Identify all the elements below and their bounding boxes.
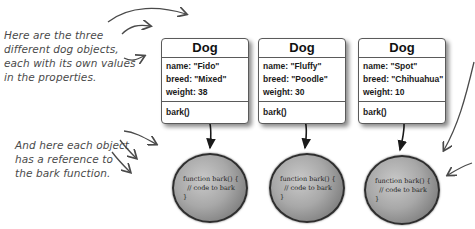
arrow-icon xyxy=(108,8,186,22)
function-code: function bark() { // code to bark } xyxy=(174,175,246,202)
dog-properties: name: "Spot" breed: "Chihuahua" weight: … xyxy=(359,58,445,102)
dog-properties: name: "Fido" breed: "Mixed" weight: 38 xyxy=(162,58,248,102)
prop-weight: weight: 38 xyxy=(166,86,244,99)
arrow-icon xyxy=(448,163,472,175)
function-code: function bark() { // code to bark } xyxy=(271,175,343,202)
prop-breed: breed: "Chihuahua" xyxy=(363,73,441,86)
dog-object-spot: Dog name: "Spot" breed: "Chihuahua" weig… xyxy=(358,38,446,124)
function-code: function bark() { // code to bark } xyxy=(366,177,438,204)
arrow-icon xyxy=(124,131,156,144)
code-line: function bark() { xyxy=(375,177,431,185)
code-line: } xyxy=(375,195,379,203)
arrow-icon xyxy=(112,152,130,172)
prop-breed: breed: "Mixed" xyxy=(166,73,244,86)
dog-properties: name: "Fluffy" breed: "Poodle" weight: 3… xyxy=(259,58,345,102)
dog-object-fido: Dog name: "Fido" breed: "Mixed" weight: … xyxy=(161,38,249,124)
arrow-icon xyxy=(444,62,474,150)
prop-name: name: "Spot" xyxy=(363,60,441,73)
code-line: function bark() { xyxy=(280,175,336,183)
prop-breed: breed: "Poodle" xyxy=(263,73,341,86)
arrow-icon xyxy=(122,25,150,34)
dog-class-title: Dog xyxy=(162,39,248,58)
code-line: // code to bark xyxy=(375,186,427,194)
prop-name: name: "Fido" xyxy=(166,60,244,73)
code-line: // code to bark xyxy=(280,184,332,192)
code-line: // code to bark xyxy=(183,184,235,192)
prop-weight: weight: 10 xyxy=(363,86,441,99)
dog-class-title: Dog xyxy=(259,39,345,58)
bark-function-ball: function bark() { // code to bark } xyxy=(269,153,345,223)
code-line: } xyxy=(280,193,284,201)
code-line: } xyxy=(183,193,187,201)
arrow-icon xyxy=(120,140,136,158)
code-line: function bark() { xyxy=(183,175,239,183)
dog-class-title: Dog xyxy=(359,39,445,58)
bark-function-ball: function bark() { // code to bark } xyxy=(172,153,248,223)
bark-function-ball: function bark() { // code to bark } xyxy=(364,155,440,225)
dog-object-fluffy: Dog name: "Fluffy" breed: "Poodle" weigh… xyxy=(258,38,346,124)
arrow-icon xyxy=(124,56,144,60)
prop-weight: weight: 30 xyxy=(263,86,341,99)
method-bark: bark() xyxy=(259,102,345,122)
method-bark: bark() xyxy=(359,102,445,122)
prop-name: name: "Fluffy" xyxy=(263,60,341,73)
method-bark: bark() xyxy=(162,102,248,122)
